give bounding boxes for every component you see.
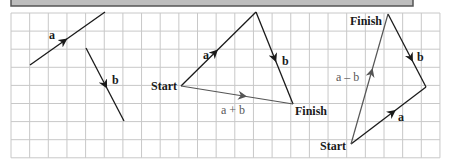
vector-a (30, 12, 105, 65)
panel-separate-vectors: a b (30, 12, 124, 121)
start-label: Start (151, 79, 177, 93)
graph-paper-grid (11, 13, 440, 158)
label-a-plus-b: a + b (221, 103, 245, 117)
label-b: b (282, 54, 289, 68)
label-a: a (49, 28, 55, 42)
label-a: a (203, 48, 209, 62)
label-a: a (398, 110, 404, 124)
label-b: b (417, 50, 424, 64)
header-bar (11, 0, 413, 6)
vector-a (351, 87, 426, 144)
vector-addition-diagram: a b a b a + b Start Finish a b a – b Fin… (0, 0, 453, 167)
start-label: Start (320, 139, 346, 153)
finish-label: Finish (295, 104, 327, 118)
panel-vector-sum: a b a + b Start Finish (151, 12, 327, 118)
finish-label: Finish (350, 14, 382, 28)
label-a-minus-b: a – b (336, 70, 359, 84)
label-b: b (112, 73, 119, 87)
panel-vector-difference: a b a – b Finish Start (320, 14, 426, 153)
